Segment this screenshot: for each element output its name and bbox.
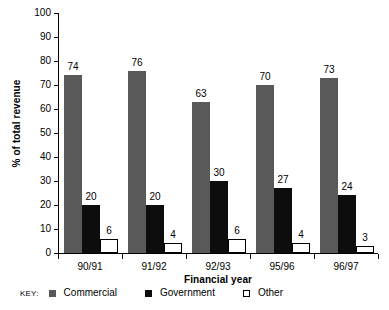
x-category-label: 96/97 (314, 261, 378, 272)
bar-value-label: 20 (140, 192, 170, 202)
x-axis-title: Financial year (58, 274, 378, 285)
bar-value-label: 74 (58, 62, 88, 72)
y-tick (54, 181, 59, 182)
bar-commercial-91-92 (128, 71, 146, 253)
x-category-label: 92/93 (186, 261, 250, 272)
bar-value-label: 76 (122, 58, 152, 68)
bar-other-96-97 (356, 246, 374, 253)
y-tick-label: 0 (25, 248, 51, 258)
bar-commercial-90-91 (64, 75, 82, 253)
legend-caption: KEY: (20, 289, 39, 298)
x-axis-line (58, 253, 378, 254)
legend-swatch-icon (243, 290, 250, 297)
y-tick-label: 70 (25, 80, 51, 90)
y-tick (54, 229, 59, 230)
y-tick-label: 80 (25, 56, 51, 66)
x-tick (186, 254, 187, 259)
y-tick-label: 20 (25, 200, 51, 210)
legend-label: Commercial (64, 288, 117, 298)
y-tick-label: 10 (25, 224, 51, 234)
bar-value-label: 3 (350, 233, 380, 243)
bar-value-label: 4 (158, 230, 188, 240)
x-tick (314, 254, 315, 259)
bar-government-96-97 (338, 195, 356, 253)
y-tick (54, 85, 59, 86)
bar-value-label: 6 (94, 226, 124, 236)
legend-swatch-icon (145, 290, 152, 297)
y-tick-label: 100 (25, 8, 51, 18)
y-axis-title: % of total revenue (11, 49, 22, 199)
legend-item-government[interactable]: Government (145, 288, 215, 298)
chart-legend: KEY: CommercialGovernmentOther (20, 286, 311, 300)
y-tick (54, 133, 59, 134)
x-category-label: 91/92 (122, 261, 186, 272)
bar-chart: % of total revenue 100908070605040302010… (0, 0, 389, 310)
x-tick (250, 254, 251, 259)
y-tick-label: 90 (25, 32, 51, 42)
y-tick (54, 13, 59, 14)
legend-items: CommercialGovernmentOther (49, 288, 311, 298)
bar-value-label: 73 (314, 65, 344, 75)
bar-government-92-93 (210, 181, 228, 253)
legend-item-other[interactable]: Other (243, 288, 283, 298)
bar-government-91-92 (146, 205, 164, 253)
y-tick (54, 157, 59, 158)
bar-value-label: 30 (204, 168, 234, 178)
bar-other-92-93 (228, 239, 246, 253)
y-tick (54, 37, 59, 38)
y-tick-label: 40 (25, 152, 51, 162)
bar-value-label: 70 (250, 72, 280, 82)
y-tick (54, 109, 59, 110)
bar-value-label: 63 (186, 89, 216, 99)
y-tick (54, 205, 59, 206)
bar-other-91-92 (164, 243, 182, 253)
bar-commercial-96-97 (320, 78, 338, 253)
bar-other-90-91 (100, 239, 118, 253)
y-tick-label: 50 (25, 128, 51, 138)
legend-swatch-icon (49, 290, 56, 297)
bar-value-label: 27 (268, 175, 298, 185)
bar-value-label: 6 (222, 226, 252, 236)
bar-value-label: 20 (76, 192, 106, 202)
bar-value-label: 4 (286, 230, 316, 240)
bar-value-label: 24 (332, 182, 362, 192)
legend-item-commercial[interactable]: Commercial (49, 288, 117, 298)
bar-other-95-96 (292, 243, 310, 253)
legend-label: Other (258, 288, 283, 298)
x-tick (378, 254, 379, 259)
x-tick (122, 254, 123, 259)
x-tick (58, 254, 59, 259)
bar-commercial-95-96 (256, 85, 274, 253)
y-tick-label: 30 (25, 176, 51, 186)
x-category-label: 90/91 (58, 261, 122, 272)
bar-government-95-96 (274, 188, 292, 253)
legend-label: Government (160, 288, 215, 298)
y-tick-label: 60 (25, 104, 51, 114)
x-category-label: 95/96 (250, 261, 314, 272)
